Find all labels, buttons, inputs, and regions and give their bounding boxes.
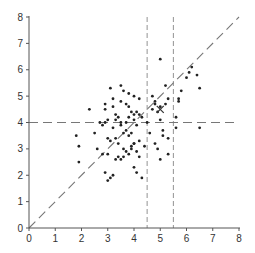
y-tick-label: 5 — [17, 91, 23, 102]
data-point — [154, 142, 157, 145]
data-point — [138, 113, 141, 116]
data-point — [167, 137, 170, 140]
data-point — [106, 137, 109, 140]
x-tick-label: 7 — [210, 233, 216, 244]
data-point — [190, 66, 193, 69]
data-point — [77, 161, 80, 164]
data-point — [151, 95, 154, 98]
data-point — [133, 95, 136, 98]
data-point — [140, 176, 143, 179]
data-point — [119, 124, 122, 127]
data-point — [167, 97, 170, 100]
data-point — [175, 126, 178, 129]
data-point — [135, 111, 138, 114]
data-point — [112, 105, 115, 108]
data-point — [117, 155, 120, 158]
data-point — [127, 92, 130, 95]
data-point — [119, 84, 122, 87]
axes: 012345678 012345678 — [17, 12, 242, 245]
data-point — [185, 76, 188, 79]
data-point — [154, 103, 157, 106]
data-point — [101, 153, 104, 156]
data-point — [114, 118, 117, 121]
data-point — [198, 126, 201, 129]
y-tick-label: 7 — [17, 38, 23, 49]
data-point — [167, 153, 170, 156]
x-tick-label: 4 — [131, 233, 137, 244]
data-point — [133, 118, 136, 121]
data-point — [138, 97, 141, 100]
data-point — [135, 171, 138, 174]
data-point — [130, 145, 133, 148]
y-tick-label: 0 — [17, 223, 23, 234]
data-point — [138, 155, 141, 158]
data-point — [175, 116, 178, 119]
data-point — [104, 171, 107, 174]
data-point — [164, 84, 167, 87]
data-point — [135, 150, 138, 153]
data-point — [104, 108, 107, 111]
x-tick-label: 8 — [236, 233, 242, 244]
y-tick-label: 1 — [17, 196, 23, 207]
data-point — [161, 129, 164, 132]
y-tick-label: 3 — [17, 143, 23, 154]
data-point — [198, 87, 201, 90]
data-point — [125, 129, 128, 132]
data-point — [117, 142, 120, 145]
data-point — [177, 100, 180, 103]
data-point — [114, 158, 117, 161]
data-point — [154, 100, 157, 103]
y-tick-label: 4 — [17, 117, 23, 128]
data-point — [75, 134, 78, 137]
data-point — [88, 108, 91, 111]
data-point — [114, 137, 117, 140]
data-point — [127, 105, 130, 108]
data-point — [130, 132, 133, 135]
data-point — [122, 155, 125, 158]
data-point — [159, 158, 162, 161]
data-point — [159, 118, 162, 121]
data-point — [114, 113, 117, 116]
data-point — [180, 89, 183, 92]
data-point — [109, 87, 112, 90]
data-point — [140, 116, 143, 119]
data-point — [112, 126, 115, 129]
data-point — [104, 103, 107, 106]
data-point — [101, 124, 104, 127]
data-point — [119, 121, 122, 124]
data-point — [133, 113, 136, 116]
data-point — [151, 108, 154, 111]
data-point — [122, 89, 125, 92]
data-point — [135, 124, 138, 127]
data-point — [125, 150, 128, 153]
data-point — [119, 158, 122, 161]
data-point — [146, 121, 149, 124]
scatter-chart: 012345678 012345678 — [0, 0, 255, 253]
data-point — [196, 74, 199, 77]
data-point — [106, 153, 109, 156]
data-point — [112, 174, 115, 177]
x-axis-ticks: 012345678 — [26, 228, 242, 244]
data-point — [109, 140, 112, 143]
data-point — [125, 121, 128, 124]
data-point — [156, 147, 159, 150]
x-tick-label: 6 — [184, 233, 190, 244]
data-point — [130, 111, 133, 114]
data-point — [127, 153, 130, 156]
data-point — [109, 176, 112, 179]
data-point — [117, 116, 120, 119]
data-point — [127, 134, 130, 137]
data-point — [188, 71, 191, 74]
x-tick-label: 1 — [52, 233, 58, 244]
reference-lines — [29, 17, 239, 228]
data-point — [112, 97, 115, 100]
data-point — [130, 147, 133, 150]
data-point — [133, 142, 136, 145]
data-point — [122, 132, 125, 135]
y-tick-label: 6 — [17, 64, 23, 75]
data-point — [93, 132, 96, 135]
data-point — [127, 116, 130, 119]
data-point — [119, 100, 122, 103]
data-point — [104, 121, 107, 124]
data-point — [148, 132, 151, 135]
